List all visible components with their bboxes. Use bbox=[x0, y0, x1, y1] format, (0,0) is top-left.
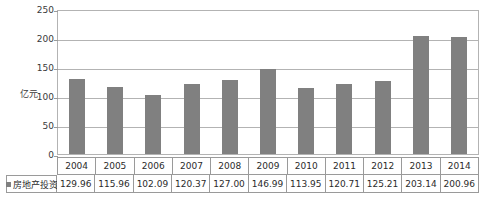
year-cell: 2006 bbox=[135, 157, 173, 175]
year-cell: 2007 bbox=[173, 157, 211, 175]
y-tick-label: 200 bbox=[30, 35, 54, 44]
value-cell: 127.00 bbox=[210, 175, 248, 193]
bar bbox=[451, 37, 467, 154]
bar-slot bbox=[325, 11, 363, 154]
bar-slot bbox=[440, 11, 478, 154]
value-cell: 120.37 bbox=[172, 175, 210, 193]
y-axis-tick-labels: 250200150100500 bbox=[30, 6, 54, 158]
value-cell: 113.95 bbox=[287, 175, 325, 193]
year-cell: 2011 bbox=[326, 157, 364, 175]
table-row-years: 2004200520062007200820092010201120122013… bbox=[6, 157, 479, 175]
year-cell: 2010 bbox=[288, 157, 326, 175]
value-cell: 125.21 bbox=[364, 175, 402, 193]
year-cell: 2014 bbox=[441, 157, 479, 175]
legend-label: 房地产投资 bbox=[13, 178, 58, 191]
bar-slot bbox=[249, 11, 287, 154]
bar bbox=[298, 88, 314, 154]
year-cells: 2004200520062007200820092010201120122013… bbox=[57, 157, 479, 175]
value-cell: 203.14 bbox=[402, 175, 440, 193]
plot-area bbox=[57, 10, 479, 155]
bar bbox=[69, 79, 85, 154]
data-table: 2004200520062007200820092010201120122013… bbox=[6, 157, 479, 193]
bar bbox=[336, 84, 352, 154]
bar-slot bbox=[211, 11, 249, 154]
bar bbox=[375, 81, 391, 154]
value-cell: 120.71 bbox=[326, 175, 364, 193]
bar bbox=[260, 69, 276, 154]
bar-slot bbox=[173, 11, 211, 154]
value-cells: 129.96115.96102.09120.37127.00146.99113.… bbox=[57, 175, 479, 193]
bar-slot bbox=[402, 11, 440, 154]
bar-slot bbox=[58, 11, 96, 154]
year-cell: 2004 bbox=[57, 157, 96, 175]
bar bbox=[222, 80, 238, 154]
y-tick-label: 250 bbox=[30, 6, 54, 15]
bar bbox=[413, 36, 429, 154]
value-cell: 200.96 bbox=[441, 175, 479, 193]
bar bbox=[107, 87, 123, 154]
year-cell: 2009 bbox=[249, 157, 287, 175]
legend-cell: 房地产投资 bbox=[6, 175, 57, 193]
value-cell: 102.09 bbox=[134, 175, 172, 193]
table-corner-cell bbox=[6, 157, 57, 175]
bar-slot bbox=[287, 11, 325, 154]
value-cell: 115.96 bbox=[95, 175, 133, 193]
y-tick-label: 150 bbox=[30, 64, 54, 73]
bar-slot bbox=[134, 11, 172, 154]
y-tick-label: 100 bbox=[30, 93, 54, 102]
year-cell: 2008 bbox=[211, 157, 249, 175]
value-cell: 129.96 bbox=[57, 175, 95, 193]
value-cell: 146.99 bbox=[249, 175, 287, 193]
table-row-values: 房地产投资 129.96115.96102.09120.37127.00146.… bbox=[6, 175, 479, 193]
bar-series bbox=[58, 11, 478, 154]
year-cell: 2005 bbox=[96, 157, 134, 175]
bar bbox=[184, 84, 200, 154]
chart-screenshot: 亿元 250200150100500 200420052006200720082… bbox=[0, 0, 483, 199]
legend-swatch-icon bbox=[6, 182, 11, 187]
y-tick-label: 50 bbox=[30, 122, 54, 131]
year-cell: 2013 bbox=[402, 157, 440, 175]
bar bbox=[145, 95, 161, 154]
year-cell: 2012 bbox=[364, 157, 402, 175]
bar-slot bbox=[364, 11, 402, 154]
bar-slot bbox=[96, 11, 134, 154]
